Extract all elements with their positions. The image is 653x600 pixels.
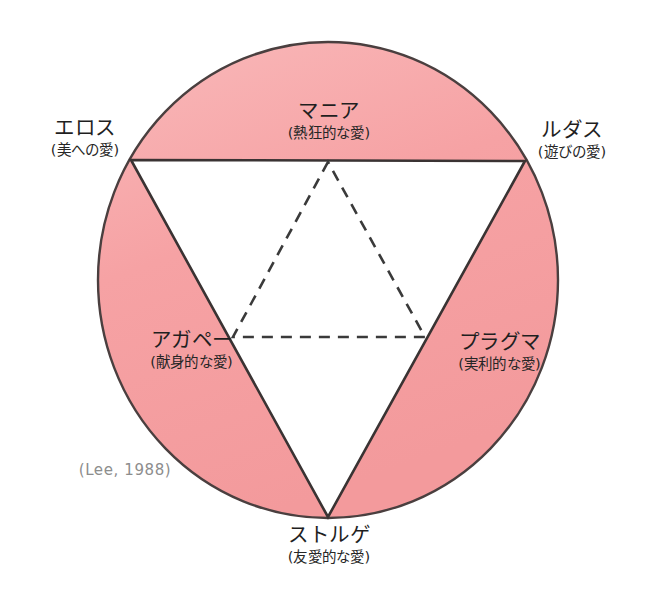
label-pragma-term: プラグマ — [418, 330, 581, 354]
label-pragma: プラグマ (実利的な愛) — [418, 330, 581, 373]
label-ludus-gloss: (遊びの愛) — [497, 144, 647, 161]
label-storge: ストルゲ (友愛的な愛) — [243, 523, 415, 566]
label-storge-gloss: (友愛的な愛) — [243, 549, 415, 566]
label-ludus-term: ルダス — [497, 118, 647, 142]
label-mania-term: マニア — [243, 99, 415, 123]
label-pragma-gloss: (実利的な愛) — [418, 356, 581, 373]
label-agape: アガペー (献身的な愛) — [110, 328, 273, 371]
label-agape-term: アガペー — [110, 328, 273, 352]
citation-text: (Lee, 1988) — [55, 461, 195, 479]
label-agape-gloss: (献身的な愛) — [110, 354, 273, 371]
diagram-canvas: エロス (美への愛) ルダス (遊びの愛) マニア (熱狂的な愛) アガペー (… — [0, 0, 653, 600]
label-eros-gloss: (美への愛) — [10, 142, 160, 159]
label-mania: マニア (熱狂的な愛) — [243, 99, 415, 142]
label-mania-gloss: (熱狂的な愛) — [243, 125, 415, 142]
love-styles-figure — [0, 0, 653, 600]
label-storge-term: ストルゲ — [243, 523, 415, 547]
label-eros-term: エロス — [10, 116, 160, 140]
label-eros: エロス (美への愛) — [10, 116, 160, 159]
label-ludus: ルダス (遊びの愛) — [497, 118, 647, 161]
